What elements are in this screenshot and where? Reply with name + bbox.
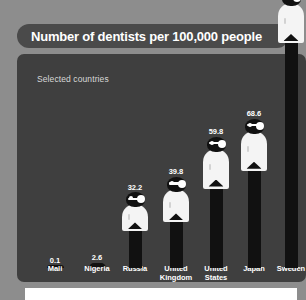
bar-column: 68.6 <box>234 110 274 268</box>
chart-plot-area: 0.12.632.239.859.868.6132 <box>17 0 306 282</box>
dentist-coat-icon <box>163 189 189 223</box>
bar-value-label: 59.8 <box>209 128 224 136</box>
infographic-root: Number of dentists per 100,000 people Se… <box>0 0 306 300</box>
dentist-pictogram <box>163 177 189 268</box>
bar-shape <box>129 230 142 268</box>
bar-value-label: 39.8 <box>169 168 184 176</box>
headlamp-light-icon <box>248 123 252 127</box>
headlamp-light-icon <box>170 181 174 185</box>
coat-pocket-icon <box>128 214 130 220</box>
bottom-white-panel <box>25 288 297 300</box>
headlamp-light-icon <box>129 196 133 200</box>
dentist-coat-icon <box>122 204 148 231</box>
dentist-pictogram <box>241 119 267 268</box>
dental-mirror-icon <box>293 0 301 2</box>
bar-shape <box>210 188 223 269</box>
coat-collar-icon <box>169 213 184 220</box>
coat-collar-icon <box>128 222 143 229</box>
dentist-coat-icon <box>278 3 304 43</box>
dentist-head-icon <box>207 137 226 152</box>
coat-pocket-icon <box>209 164 211 170</box>
coat-collar-icon <box>247 162 262 169</box>
coat-collar-icon <box>209 180 224 187</box>
dentist-pictogram <box>203 137 229 269</box>
coat-pocket-icon <box>169 202 171 208</box>
bar-value-label: 32.2 <box>128 184 143 192</box>
dentist-coat-icon <box>241 131 267 171</box>
coat-collar-icon <box>284 34 299 41</box>
dental-mirror-icon <box>218 140 226 148</box>
dentist-head-icon <box>245 119 264 134</box>
bar-column: 39.8 <box>156 168 196 268</box>
coat-pocket-icon <box>247 146 249 152</box>
bar-shape <box>248 170 261 268</box>
left-margin-strip <box>0 0 17 300</box>
dentist-coat-icon <box>203 149 229 189</box>
dentist-head-icon <box>167 177 186 192</box>
bar-shape <box>170 221 183 268</box>
dental-mirror-icon <box>137 195 145 203</box>
dental-mirror-icon <box>178 180 186 188</box>
dentist-pictogram <box>122 192 148 268</box>
bar-value-label: 2.6 <box>92 254 102 262</box>
bar-column: 132 <box>271 0 306 268</box>
dentist-pictogram <box>278 0 304 268</box>
dental-mirror-icon <box>256 122 264 130</box>
coat-pocket-icon <box>284 18 286 24</box>
bar-value-label: 0.1 <box>50 257 60 265</box>
bar-value-label: 68.6 <box>247 110 262 118</box>
dentist-head-icon <box>126 192 145 207</box>
headlamp-light-icon <box>210 141 214 145</box>
bar-column: 59.8 <box>196 128 236 268</box>
bar-shape <box>285 42 298 268</box>
bar-column: 32.2 <box>115 184 155 268</box>
x-axis-tick-label: Mali <box>32 264 78 273</box>
